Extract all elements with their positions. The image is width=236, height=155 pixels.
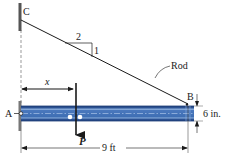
point-b-label: B (187, 91, 194, 102)
rod-label: Rod (171, 60, 188, 71)
beam (21, 106, 194, 121)
pin-a (14, 112, 23, 116)
beam-length-label: 9 ft (102, 142, 116, 153)
x-dimension-label: x (44, 76, 50, 87)
beam-rod-diagram: 2 1 Rod C A B x P (0, 0, 236, 155)
rod (21, 20, 188, 104)
point-b-marker (186, 103, 188, 105)
beam-depth-label: 6 in. (203, 108, 221, 119)
wall-support-c (19, 3, 22, 31)
rod-label-group: Rod (155, 60, 188, 78)
slope-indicator: 2 1 (65, 31, 99, 57)
slope-run-label: 2 (76, 31, 81, 42)
point-c-label: C (23, 6, 30, 17)
slope-rise-label: 1 (94, 45, 99, 56)
point-a-label: A (5, 108, 13, 119)
load-p-label: P (79, 135, 86, 147)
beam-depth-dimension: 6 in. (194, 94, 221, 133)
x-dimension: x (22, 76, 73, 89)
